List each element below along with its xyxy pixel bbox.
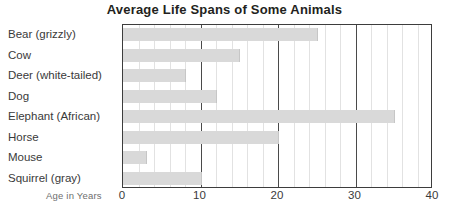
category-label: Cow [8, 45, 120, 66]
bar-row [123, 128, 431, 149]
x-tick-label: 0 [119, 189, 125, 201]
x-axis-title: Age in Years [46, 190, 102, 201]
x-tick-label: 40 [426, 189, 439, 201]
bar [123, 131, 279, 144]
bar [123, 110, 395, 123]
chart-title: Average Life Spans of Some Animals [0, 2, 449, 17]
category-label: Squirrel (gray) [8, 168, 120, 189]
bar [123, 151, 147, 164]
x-tick-label: 20 [271, 189, 284, 201]
bar-row [123, 66, 431, 87]
category-axis-labels: Bear (grizzly)CowDeer (white-tailed)DogE… [8, 24, 120, 188]
category-label: Horse [8, 127, 120, 148]
bar-row [123, 169, 431, 190]
bar [123, 172, 202, 185]
bar-row [123, 25, 431, 46]
chart-container: Average Life Spans of Some Animals Bear … [0, 0, 449, 212]
category-label: Dog [8, 86, 120, 107]
bar-row [123, 148, 431, 169]
x-axis-tick-labels: 010203040 [122, 189, 432, 209]
category-label: Elephant (African) [8, 106, 120, 127]
bar-row [123, 46, 431, 67]
category-label: Bear (grizzly) [8, 24, 120, 45]
bar-row [123, 107, 431, 128]
bar-series [123, 25, 431, 187]
bar [123, 49, 240, 62]
category-label: Mouse [8, 147, 120, 168]
plot-area [122, 24, 432, 188]
x-tick-label: 10 [193, 189, 206, 201]
bar [123, 28, 318, 41]
x-tick-label: 30 [348, 189, 361, 201]
bar [123, 69, 186, 82]
category-label: Deer (white-tailed) [8, 65, 120, 86]
bar-row [123, 87, 431, 108]
bar [123, 90, 217, 103]
